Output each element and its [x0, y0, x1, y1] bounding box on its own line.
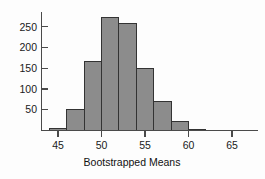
bootstrapped-means-histogram: 50100150200250 4550556065 Bootstrapped M… [0, 0, 265, 179]
histogram-bar [119, 23, 136, 130]
y-tick-label: 150 [19, 62, 37, 74]
histogram-bar [154, 102, 171, 131]
x-axis: 4550556065 [42, 131, 259, 152]
x-tick-label: 55 [139, 139, 151, 151]
y-tick-label: 100 [19, 83, 37, 95]
y-tick-label: 50 [25, 103, 37, 115]
histogram-bar [171, 121, 188, 130]
x-axis-title: Bootstrapped Means [84, 156, 181, 168]
histogram-bar [136, 68, 153, 130]
x-tick-label: 65 [226, 139, 238, 151]
histogram-figure: 50100150200250 4550556065 Bootstrapped M… [0, 0, 265, 179]
histogram-bar [67, 109, 84, 130]
histogram-bar [84, 62, 101, 131]
y-tick-label: 250 [19, 21, 37, 33]
x-tick-group: 4550556065 [52, 131, 238, 152]
histogram-bar [102, 18, 119, 131]
y-tick-group: 50100150200250 [19, 21, 47, 116]
x-tick-label: 60 [183, 139, 195, 151]
bars-group [49, 18, 206, 131]
x-tick-label: 45 [52, 139, 64, 151]
y-axis: 50100150200250 [19, 12, 47, 131]
x-tick-label: 50 [96, 139, 108, 151]
y-tick-label: 200 [19, 41, 37, 53]
